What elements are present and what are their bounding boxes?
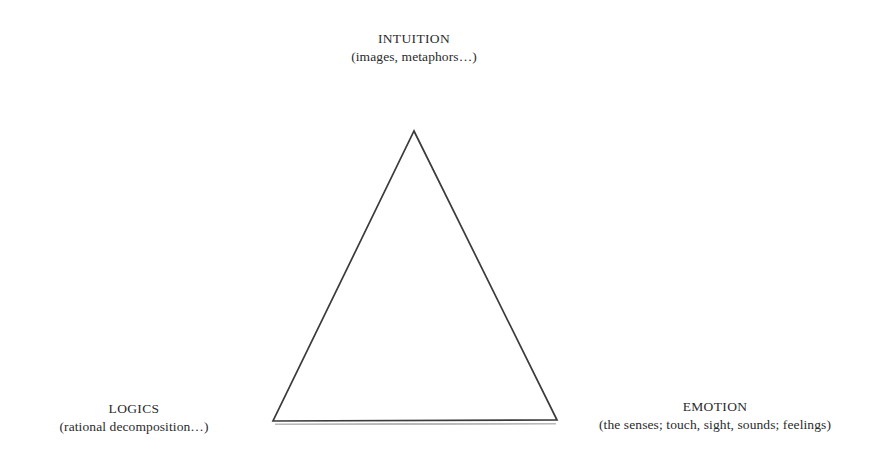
- triangle-outline: [273, 131, 557, 421]
- intuition-title: INTUITION: [351, 30, 477, 48]
- emotion-subtitle: (the senses; touch, sight, sounds; feeli…: [599, 416, 831, 434]
- intuition-subtitle: (images, metaphors…): [351, 48, 477, 66]
- emotion-title: EMOTION: [599, 398, 831, 416]
- triangle-shape: [0, 0, 892, 467]
- vertex-label-logics: LOGICS (rational decomposition…): [59, 400, 208, 436]
- vertex-label-emotion: EMOTION (the senses; touch, sight, sound…: [599, 398, 831, 434]
- logics-title: LOGICS: [59, 400, 208, 418]
- base-line-shadow: [275, 424, 556, 425]
- vertex-label-intuition: INTUITION (images, metaphors…): [351, 30, 477, 66]
- diagram-canvas: INTUITION (images, metaphors…) LOGICS (r…: [0, 0, 892, 467]
- logics-subtitle: (rational decomposition…): [59, 418, 208, 436]
